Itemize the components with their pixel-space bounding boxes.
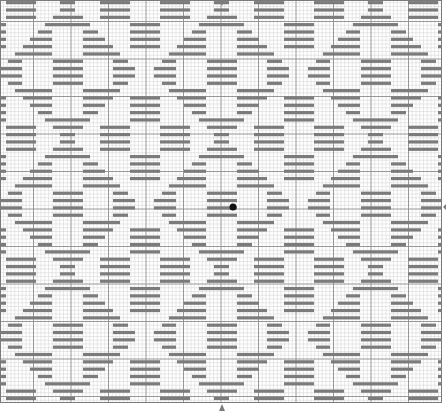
stitch-bar bbox=[8, 324, 22, 327]
stitch-bar bbox=[83, 302, 105, 305]
stitch-bar bbox=[6, 1, 36, 4]
stitch-bar bbox=[100, 397, 130, 400]
stitch-bar bbox=[284, 294, 314, 297]
stitch-bar bbox=[30, 236, 52, 239]
stitch-bar bbox=[83, 375, 98, 378]
stitch-bar bbox=[254, 1, 284, 4]
stitch-bar bbox=[53, 324, 83, 327]
stitch-bar bbox=[6, 140, 36, 143]
stitch-bar bbox=[100, 133, 130, 136]
stitch-bar bbox=[0, 74, 22, 77]
stitch-bar bbox=[361, 74, 391, 77]
stitch-bar bbox=[214, 8, 229, 11]
stitch-bar bbox=[284, 228, 314, 231]
stitch-bar bbox=[338, 104, 360, 107]
stitch-bar bbox=[184, 38, 206, 41]
stitch-bar bbox=[391, 302, 413, 305]
stitch-bar bbox=[316, 82, 330, 85]
stitch-bar bbox=[237, 111, 252, 114]
stitch-bar bbox=[130, 382, 160, 385]
stitch-bar bbox=[53, 206, 83, 209]
stitch-bar bbox=[314, 258, 344, 261]
stitch-bar bbox=[177, 96, 206, 99]
stitch-bar bbox=[254, 280, 284, 283]
stitch-bar bbox=[314, 140, 344, 143]
stitch-bar bbox=[368, 8, 383, 11]
stitch-bar bbox=[368, 397, 383, 400]
stitch-bar bbox=[113, 67, 135, 70]
stitch-bar bbox=[284, 96, 314, 99]
stitch-bar bbox=[130, 360, 160, 363]
stitch-bar bbox=[421, 199, 442, 202]
stitch-bar bbox=[160, 148, 190, 151]
stitch-bar bbox=[38, 243, 52, 246]
stitch-bar bbox=[421, 206, 442, 209]
cursor-position-dot[interactable] bbox=[230, 204, 237, 211]
stitch-bar bbox=[199, 287, 244, 290]
stitch-bar bbox=[267, 214, 282, 217]
stitch-bar bbox=[60, 272, 75, 275]
stitch-bar bbox=[237, 177, 267, 180]
stitch-bar bbox=[30, 170, 52, 173]
stitch-bar bbox=[130, 111, 160, 114]
stitch-bar bbox=[199, 23, 244, 26]
stitch-bar bbox=[113, 346, 128, 349]
stitch-bar bbox=[130, 375, 160, 378]
stitch-bar bbox=[207, 258, 237, 261]
stitch-bar bbox=[207, 324, 237, 327]
stitch-bar bbox=[267, 192, 282, 195]
stitch-bar bbox=[361, 258, 391, 261]
stitch-bar bbox=[421, 67, 442, 70]
stitch-bar bbox=[316, 214, 330, 217]
stitch-bar bbox=[391, 375, 406, 378]
stitch-bar bbox=[162, 60, 176, 63]
stitch-bar bbox=[177, 309, 206, 312]
stitch-pattern-grid[interactable] bbox=[0, 0, 446, 414]
stitch-bar bbox=[83, 243, 98, 246]
stitch-bar bbox=[353, 287, 398, 290]
stitch-bar bbox=[199, 250, 244, 253]
stitch-bar bbox=[284, 309, 314, 312]
stitch-bar bbox=[331, 177, 360, 180]
stitch-bar bbox=[421, 346, 436, 349]
stitch-bar bbox=[361, 324, 391, 327]
stitch-bar bbox=[8, 346, 22, 349]
stitch-bar bbox=[254, 258, 284, 261]
stitch-bar bbox=[237, 360, 267, 363]
stitch-bar bbox=[60, 397, 75, 400]
stitch-bar bbox=[177, 360, 206, 363]
stitch-bar bbox=[0, 206, 22, 209]
stitch-bar bbox=[284, 170, 314, 173]
stitch-bar bbox=[391, 89, 428, 92]
stitch-bar bbox=[237, 294, 252, 297]
stitch-bar bbox=[308, 206, 330, 209]
stitch-bar bbox=[408, 390, 438, 393]
stitch-bar bbox=[130, 38, 160, 41]
stitch-bar bbox=[130, 45, 160, 48]
stitch-bar bbox=[53, 214, 83, 217]
stitch-bar bbox=[6, 258, 36, 261]
stitch-bar bbox=[391, 111, 406, 114]
stitch-bar bbox=[53, 148, 83, 151]
stitch-bar bbox=[323, 221, 360, 224]
stitch-bar bbox=[100, 265, 130, 268]
stitch-bar bbox=[361, 346, 391, 349]
stitch-bar bbox=[160, 126, 190, 129]
stitch-bar bbox=[314, 265, 344, 268]
stitch-bar bbox=[192, 30, 206, 33]
stitch-bar bbox=[15, 316, 52, 319]
stitch-bar bbox=[254, 133, 284, 136]
stitch-bar bbox=[83, 316, 120, 319]
stitch-bar bbox=[184, 302, 206, 305]
stitch-bar bbox=[130, 368, 160, 371]
stitch-bar bbox=[130, 162, 160, 165]
stitch-bar bbox=[421, 60, 436, 63]
stitch-bar bbox=[23, 45, 52, 48]
stitch-bar bbox=[100, 390, 130, 393]
stitch-bar bbox=[254, 272, 284, 275]
stitch-bar bbox=[316, 60, 330, 63]
stitch-bar bbox=[314, 390, 344, 393]
stitch-bar bbox=[323, 89, 360, 92]
stitch-bar bbox=[284, 360, 314, 363]
stitch-bar bbox=[314, 133, 344, 136]
